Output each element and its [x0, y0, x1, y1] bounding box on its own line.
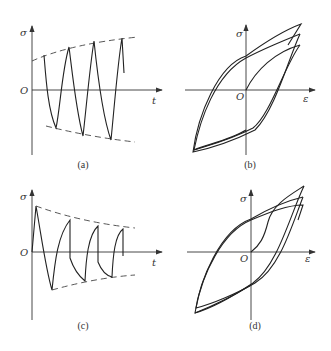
origin-label-b: O [236, 91, 244, 102]
origin-label-a: O [20, 85, 28, 96]
caption-d: (d) [249, 320, 261, 332]
panel-b: σ O ε (b) [185, 24, 315, 171]
initial-loading-d [251, 186, 304, 252]
figure-canvas: σ O t (a) σ O ε (b) σ O t (c) [0, 0, 331, 351]
sigma-label-b: σ [236, 28, 244, 39]
panel-d: σ O ε (d) [187, 186, 315, 332]
epsilon-label-d: ε [305, 253, 310, 264]
sigma-label-d: σ [240, 193, 248, 204]
caption-a: (a) [77, 159, 88, 171]
sigma-label-c: σ [20, 191, 28, 202]
hysteresis-loop-3-b [194, 130, 246, 150]
lower-envelope-c [52, 275, 135, 290]
hysteresis-loop-2-d [196, 197, 303, 308]
initial-loading-b [246, 45, 300, 90]
hysteresis-loop-1-d [195, 186, 304, 313]
epsilon-label-b: ε [303, 93, 308, 104]
origin-label-d: O [240, 253, 248, 264]
t-label-a: t [152, 95, 157, 106]
caption-b: (b) [244, 159, 256, 171]
upper-envelope-c [36, 206, 135, 228]
panel-c: σ O t (c) [20, 190, 162, 332]
caption-c: (c) [77, 320, 88, 332]
t-label-c: t [152, 257, 157, 268]
sigma-label-a: σ [20, 27, 28, 38]
stress-history-curve-a [44, 38, 124, 140]
lower-envelope-a [46, 126, 135, 142]
panel-a: σ O t (a) [20, 26, 162, 171]
origin-label-c: O [20, 247, 28, 258]
